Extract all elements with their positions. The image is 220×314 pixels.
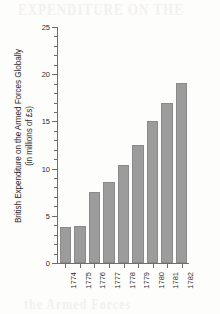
y-axis-tick-label: 20: [26, 70, 50, 79]
bar: [132, 145, 143, 263]
y-axis-minor-tick: [54, 46, 57, 47]
y-axis-minor-tick: [54, 65, 57, 66]
bar: [103, 182, 114, 263]
x-axis-tick: [94, 263, 95, 268]
y-axis-major-tick: [52, 27, 57, 28]
y-axis-major-tick: [52, 74, 57, 75]
x-axis-tick: [80, 263, 81, 268]
x-axis-tick-label: 1776: [98, 272, 107, 289]
x-axis-tick-label: 1779: [142, 272, 151, 289]
y-axis-minor-tick: [54, 112, 57, 113]
x-axis-tick-label: 1774: [69, 272, 78, 289]
y-axis-minor-tick: [54, 159, 57, 160]
y-axis-minor-tick: [54, 206, 57, 207]
y-axis-tick-label: 0: [26, 259, 50, 268]
bar: [74, 226, 85, 263]
y-axis-major-tick: [52, 216, 57, 217]
y-axis-minor-tick: [54, 84, 57, 85]
x-axis-tick-label: 1778: [128, 272, 137, 289]
y-axis-minor-tick: [54, 197, 57, 198]
y-axis-line: [57, 27, 58, 263]
y-axis-minor-tick: [54, 55, 57, 56]
y-axis-tick-label: 5: [26, 212, 50, 221]
y-axis-minor-tick: [54, 150, 57, 151]
bar: [89, 192, 100, 263]
y-axis-minor-tick: [54, 93, 57, 94]
bar: [176, 83, 187, 263]
y-axis-tick-label: 15: [26, 117, 50, 126]
y-axis-minor-tick: [54, 178, 57, 179]
y-axis-minor-tick: [54, 254, 57, 255]
bar-chart-plot: British Expenditure on the Armed Forces …: [0, 0, 220, 314]
y-axis-title-line1: British Expenditure on the Armed Forces …: [14, 16, 25, 256]
x-axis-tick-label: 1782: [186, 272, 195, 289]
y-axis-major-tick: [52, 121, 57, 122]
y-axis-minor-tick: [54, 225, 57, 226]
bar: [60, 227, 71, 263]
x-axis-tick-label: 1775: [84, 272, 93, 289]
bar: [161, 103, 172, 263]
y-axis-tick-label: 25: [26, 23, 50, 32]
x-axis-tick-label: 1780: [157, 272, 166, 289]
bar: [147, 121, 158, 263]
y-axis-minor-tick: [54, 140, 57, 141]
y-axis-minor-tick: [54, 235, 57, 236]
x-axis-tick-label: 1781: [171, 272, 180, 289]
y-axis-major-tick: [52, 169, 57, 170]
y-axis-minor-tick: [54, 187, 57, 188]
x-axis-tick: [109, 263, 110, 268]
x-axis-tick: [124, 263, 125, 268]
x-axis-tick: [138, 263, 139, 268]
chart-page: EXPENDITURE ON THE British Expenditure o…: [0, 0, 220, 314]
y-axis-minor-tick: [54, 103, 57, 104]
y-axis-tick-label: 10: [26, 165, 50, 174]
x-axis-line: [57, 263, 189, 264]
y-axis-minor-tick: [54, 244, 57, 245]
x-axis-tick-label: 1777: [113, 272, 122, 289]
y-axis-minor-tick: [54, 131, 57, 132]
x-axis-tick: [167, 263, 168, 268]
y-axis-minor-tick: [54, 36, 57, 37]
bar: [118, 165, 129, 263]
x-axis-tick: [182, 263, 183, 268]
x-axis-tick: [65, 263, 66, 268]
x-axis-tick: [153, 263, 154, 268]
